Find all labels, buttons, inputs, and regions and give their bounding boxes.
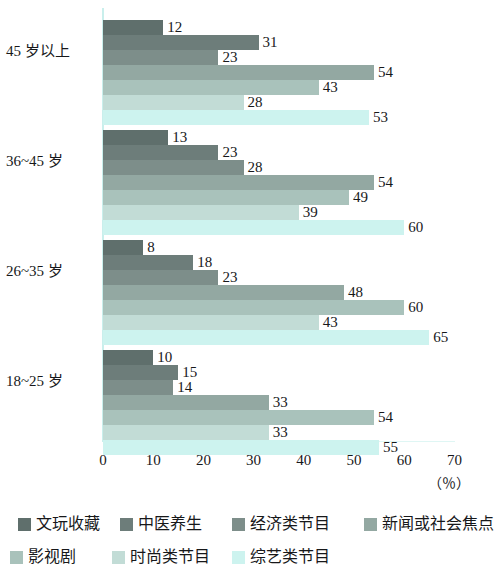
x-tick-50: 50	[347, 452, 362, 469]
bar	[103, 285, 344, 300]
bar-group: 10151433543355	[103, 350, 483, 455]
legend-swatch-icon	[232, 518, 245, 531]
bar	[103, 95, 244, 110]
legend-label: 影视剧	[28, 549, 76, 565]
bar	[103, 255, 193, 270]
legend-item[interactable]: 影视剧	[10, 549, 76, 565]
bar-value-label: 23	[222, 144, 237, 161]
bar	[103, 160, 244, 175]
bar-value-label: 60	[408, 219, 423, 236]
x-tick-40: 40	[296, 452, 311, 469]
bar-value-label: 31	[263, 34, 278, 51]
bar-row: 28	[103, 160, 483, 175]
legend-item[interactable]: 时尚类节目	[112, 549, 210, 565]
bar	[103, 20, 163, 35]
bar-row: 12	[103, 20, 483, 35]
x-tick-30: 30	[246, 452, 261, 469]
legend-swatch-icon	[120, 518, 133, 531]
legend-item[interactable]: 中医养生	[120, 516, 202, 532]
bar-row: 48	[103, 285, 483, 300]
bar-value-label: 54	[378, 409, 393, 426]
legend-label: 文玩收藏	[36, 516, 100, 532]
bar-row: 33	[103, 425, 483, 440]
x-tick-0: 0	[99, 452, 107, 469]
bar-value-label: 43	[323, 79, 338, 96]
legend-label: 综艺类节目	[250, 549, 330, 565]
bar-row: 60	[103, 300, 483, 315]
bar-group: 8182348604365	[103, 240, 483, 345]
bar	[103, 410, 374, 425]
x-axis-unit-label: （％）	[428, 472, 470, 492]
bar-row: 23	[103, 50, 483, 65]
bar-row: 28	[103, 95, 483, 110]
bar-row: 53	[103, 110, 483, 125]
category-label-2: 26~35 岁	[6, 259, 98, 280]
legend-item[interactable]: 综艺类节目	[232, 549, 330, 565]
bar	[103, 270, 218, 285]
bar	[103, 205, 299, 220]
bar-row: 43	[103, 80, 483, 95]
bar	[103, 300, 404, 315]
bar-value-label: 14	[177, 379, 192, 396]
bar	[103, 425, 269, 440]
bar-value-label: 33	[273, 424, 288, 441]
bar-value-label: 23	[222, 49, 237, 66]
bar	[103, 50, 218, 65]
bar	[103, 315, 319, 330]
legend-swatch-icon	[364, 518, 377, 531]
legend-item[interactable]: 经济类节目	[232, 516, 330, 532]
bar	[103, 80, 319, 95]
legend-swatch-icon	[10, 551, 23, 564]
bar-row: 39	[103, 205, 483, 220]
bar-value-label: 28	[248, 159, 263, 176]
bar	[103, 240, 143, 255]
bar-group: 12312354432853	[103, 20, 483, 125]
bar-row: 49	[103, 190, 483, 205]
bar-value-label: 54	[378, 174, 393, 191]
bar-value-label: 48	[348, 284, 363, 301]
legend-label: 中医养生	[138, 516, 202, 532]
bar	[103, 365, 178, 380]
legend-row: 影视剧时尚类节目综艺类节目	[0, 541, 495, 574]
bar-value-label: 28	[248, 94, 263, 111]
bar	[103, 380, 173, 395]
x-tick-20: 20	[196, 452, 211, 469]
legend-label: 经济类节目	[250, 516, 330, 532]
bar-row: 18	[103, 255, 483, 270]
bar-value-label: 39	[303, 204, 318, 221]
legend-swatch-icon	[232, 551, 245, 564]
bar-value-label: 33	[273, 394, 288, 411]
x-tick-10: 10	[146, 452, 161, 469]
legend-label: 新闻或社会焦点	[382, 516, 494, 532]
bar-value-label: 54	[378, 64, 393, 81]
legend-row: 文玩收藏中医养生经济类节目新闻或社会焦点	[0, 508, 495, 541]
bar-value-label: 13	[172, 129, 187, 146]
bar	[103, 350, 153, 365]
plot-area: 1231235443285313232854493960818234860436…	[103, 8, 483, 440]
bar-row: 65	[103, 330, 483, 345]
bar-value-label: 43	[323, 314, 338, 331]
legend-swatch-icon	[112, 551, 125, 564]
legend-swatch-icon	[18, 518, 31, 531]
bar-value-label: 18	[197, 254, 212, 271]
bar-row: 33	[103, 395, 483, 410]
bar-value-label: 23	[222, 269, 237, 286]
bar	[103, 110, 369, 125]
category-label-0: 45 岁以上	[6, 39, 98, 60]
bar-row: 54	[103, 410, 483, 425]
category-label-1: 36~45 岁	[6, 149, 98, 170]
bar-row: 23	[103, 270, 483, 285]
bar	[103, 175, 374, 190]
bar	[103, 145, 218, 160]
bar	[103, 330, 429, 345]
category-label-3: 18~25 岁	[6, 369, 98, 390]
x-tick-70: 70	[447, 452, 462, 469]
legend-item[interactable]: 新闻或社会焦点	[364, 516, 494, 532]
x-tick-60: 60	[397, 452, 412, 469]
legend-label: 时尚类节目	[130, 549, 210, 565]
bar-row: 13	[103, 130, 483, 145]
bar-value-label: 10	[157, 349, 172, 366]
bar-row: 60	[103, 220, 483, 235]
legend-item[interactable]: 文玩收藏	[18, 516, 100, 532]
bar-row: 10	[103, 350, 483, 365]
